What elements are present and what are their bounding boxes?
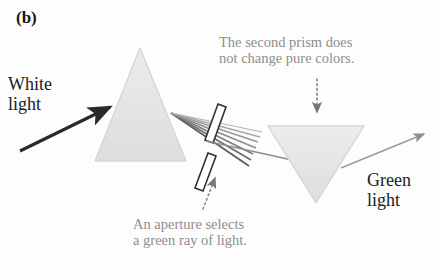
- physics-prism-figure: (b) White light Green light The second p…: [0, 0, 438, 280]
- panel-label: (b): [16, 8, 37, 27]
- second-prism-annotation: The second prism does not change pure co…: [219, 34, 354, 66]
- green-light-label: Green light: [367, 170, 411, 210]
- white-light-label: White light: [8, 74, 52, 114]
- aperture-annotation: An aperture selects a green ray of light…: [133, 216, 247, 248]
- prism-one: [95, 48, 186, 161]
